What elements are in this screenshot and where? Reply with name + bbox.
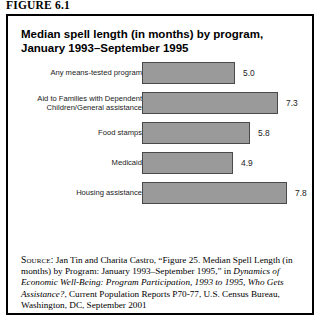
bar-rect <box>142 182 287 204</box>
bar-category-label: Housing assistance <box>18 188 142 197</box>
figure-container: FIGURE 6.1 Median spell length (in month… <box>0 0 321 319</box>
bar-chart-plot-area: Any means-tested program 5.0 Aid to Fami… <box>8 62 312 224</box>
bar-rect <box>142 122 250 144</box>
bar-category-label: Food stamps <box>18 128 142 137</box>
bar-value-label: 5.0 <box>243 68 255 78</box>
bar-category-label: Any means-tested program <box>18 68 142 77</box>
bar-value-label: 7.3 <box>286 98 298 108</box>
source-note: Source: Jan Tin and Charita Castro, “Fig… <box>21 254 303 311</box>
bar-track: 5.8 <box>142 122 312 144</box>
bar-track: 7.3 <box>142 92 312 114</box>
bar-track: 7.8 <box>142 182 312 204</box>
bar-row: Food stamps 5.8 <box>8 122 312 144</box>
bar-value-label: 7.8 <box>295 188 307 198</box>
chart-title: Median spell length (in months) by progr… <box>21 27 301 55</box>
bar-rect <box>142 62 235 84</box>
bar-category-label: Medicaid <box>18 158 142 167</box>
bar-track: 4.9 <box>142 152 312 174</box>
figure-number-label: FIGURE 6.1 <box>6 0 70 11</box>
source-label: Source: <box>21 254 53 265</box>
bar-value-label: 4.9 <box>241 158 253 168</box>
bar-row: Housing assistance 7.8 <box>8 182 312 204</box>
bar-value-label: 5.8 <box>258 128 270 138</box>
bar-rect <box>142 92 278 114</box>
bar-row: Any means-tested program 5.0 <box>8 62 312 84</box>
bar-row: Medicaid 4.9 <box>8 152 312 174</box>
bar-row: Aid to Families with Dependent Children/… <box>8 92 312 114</box>
bar-rect <box>142 152 233 174</box>
bar-category-label: Aid to Families with Dependent Children/… <box>18 94 142 112</box>
figure-bordered-box: Median spell length (in months) by progr… <box>6 14 314 315</box>
bar-track: 5.0 <box>142 62 312 84</box>
